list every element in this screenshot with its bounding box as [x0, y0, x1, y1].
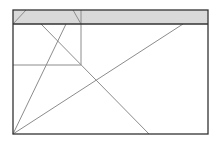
header-bar	[13, 10, 208, 24]
diagonal-line-a	[41, 24, 149, 134]
diagonal-lines	[13, 10, 183, 134]
diagonal-line-b	[13, 24, 66, 134]
wireframe-diagram	[0, 0, 219, 141]
diagonal-line-c	[13, 24, 183, 134]
